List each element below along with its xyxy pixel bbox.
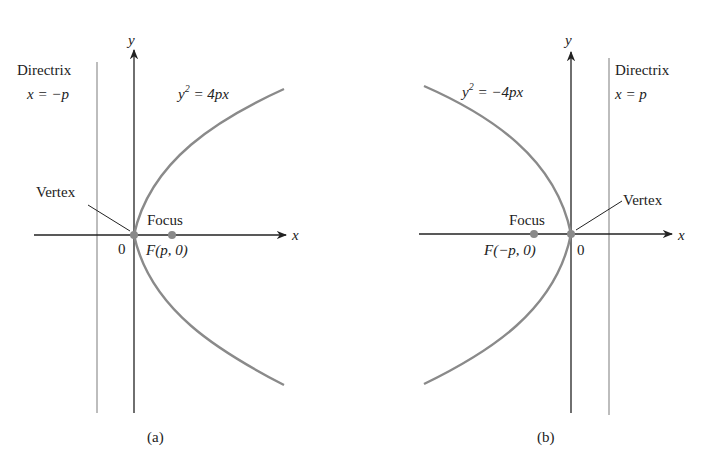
origin-label: 0 [118, 241, 126, 257]
parabola-curve [424, 86, 571, 384]
parabola-curve [134, 89, 284, 385]
x-axis-label: x [677, 227, 685, 243]
vertex-label: Vertex [623, 192, 663, 208]
focus-coordinate: F(p, 0) [145, 242, 188, 259]
focus-label: Focus [147, 212, 183, 228]
caption-a: (a) [147, 429, 164, 446]
directrix-equation: x = −p [26, 86, 69, 102]
y-axis-label: y [563, 32, 572, 48]
directrix-title: Directrix [17, 62, 72, 78]
vertex-point [130, 231, 138, 239]
focus-coordinate: F(−p, 0) [483, 242, 536, 259]
vertex-point [567, 230, 575, 238]
caption-b: (b) [537, 429, 555, 446]
directrix-title: Directrix [615, 62, 670, 78]
parabola-diagram: y x Directrix x = −p y2 = 4px Vertex Foc… [0, 0, 716, 473]
x-axis-label: x [291, 227, 299, 243]
parabola-equation: y2 = 4px [176, 83, 229, 102]
vertex-leader [88, 205, 130, 231]
parabola-equation: y2 = −4px [460, 81, 523, 100]
directrix-equation: x = p [614, 86, 647, 102]
vertex-leader [576, 201, 622, 230]
focus-point [530, 230, 538, 238]
panel-a: y x Directrix x = −p y2 = 4px Vertex Foc… [17, 32, 299, 446]
origin-label: 0 [577, 242, 585, 258]
y-axis-label: y [126, 32, 135, 48]
panel-b: y x Directrix x = p y2 = −4px Vertex Foc… [419, 32, 685, 446]
vertex-label: Vertex [36, 184, 76, 200]
focus-point [168, 231, 176, 239]
focus-label: Focus [509, 212, 545, 228]
